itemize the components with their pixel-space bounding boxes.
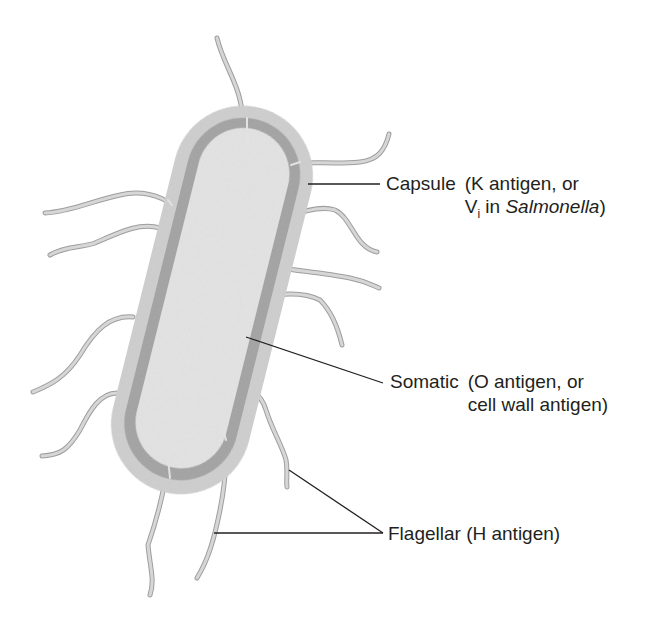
capsule-detail-line1: (K antigen, or [465,173,579,194]
somatic-detail-line1: (O antigen, or [468,371,584,392]
somatic-label-name: Somatic [390,370,459,393]
flagellar-label: Flagellar (H antigen) [388,522,560,545]
capsule-detail-vi: V [465,196,478,217]
flagellar-leader-line-upper [289,470,383,533]
capsule-detail-close: ) [599,196,605,217]
capsule-label-detail: (K antigen, orVi in Salmonella) [465,172,606,226]
capsule-label: Capsule(K antigen, orVi in Salmonella) [386,172,606,226]
capsule-label-name: Capsule [386,172,456,195]
somatic-label-detail: (O antigen, orcell wall antigen) [468,370,608,416]
capsule-detail-in: in [480,196,505,217]
capsule-detail-genus: Salmonella [505,196,599,217]
somatic-detail-line2: cell wall antigen) [468,394,608,415]
flagellar-label-name: Flagellar (H antigen) [388,523,560,544]
somatic-label: Somatic(O antigen, orcell wall antigen) [390,370,608,416]
